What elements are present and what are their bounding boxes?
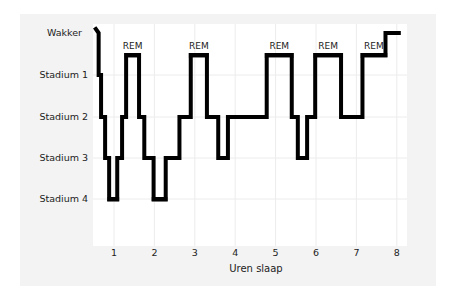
x-tick-label: 8: [394, 247, 400, 258]
y-label: Stadium 2: [39, 111, 88, 122]
x-tick-label: 6: [313, 247, 319, 258]
y-label: Stadium 4: [39, 193, 88, 204]
x-tick-label: 2: [151, 247, 157, 258]
x-tick-label: 7: [353, 247, 359, 258]
x-axis-title: Uren slaap: [229, 263, 282, 274]
x-axis-labels: 12345678: [111, 247, 400, 258]
rem-label: REM: [189, 41, 209, 51]
x-tick-label: 5: [273, 247, 279, 258]
y-label: Stadium 1: [39, 69, 88, 80]
y-axis-labels: WakkerStadium 1Stadium 2Stadium 3Stadium…: [39, 27, 88, 204]
x-tick-label: 4: [232, 247, 238, 258]
rem-label: REM: [364, 41, 384, 51]
y-label: Stadium 3: [39, 152, 88, 163]
y-label: Wakker: [47, 27, 82, 38]
rem-label: REM: [123, 41, 143, 51]
x-tick-label: 1: [111, 247, 117, 258]
x-tick-label: 3: [192, 247, 198, 258]
hypnogram-chart: WakkerStadium 1Stadium 2Stadium 3Stadium…: [0, 0, 457, 293]
rem-label: REM: [318, 41, 338, 51]
rem-label: REM: [269, 41, 289, 51]
